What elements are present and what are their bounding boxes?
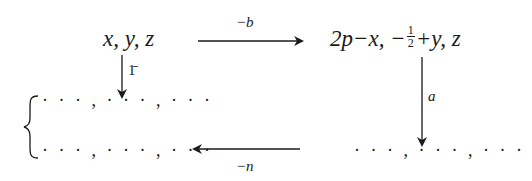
- node-x-y-z: x, y, z: [103, 26, 154, 52]
- node-bottom-right-dots: · · · , · · · , · · ·: [354, 140, 525, 161]
- edge-label-a: a: [428, 88, 436, 105]
- edge-label-minus-n: −n: [236, 158, 254, 175]
- node-glide-prefix: 2p−x, −: [330, 26, 406, 51]
- node-glide-image: 2p−x, −12+y, z: [330, 26, 461, 53]
- fraction-one-half: 12: [407, 24, 415, 49]
- node-middle-left-dots: · · · , · · · , · · ·: [42, 90, 213, 111]
- fraction-denominator: 2: [407, 37, 415, 49]
- node-x-y-z-text: x, y, z: [103, 26, 154, 51]
- edge-label-inversion: 1̄: [128, 62, 136, 79]
- left-brace: [24, 96, 38, 158]
- edge-label-minus-b: −b: [236, 14, 254, 31]
- node-bottom-left-dots: · · · , · · · , · · ·: [42, 140, 213, 161]
- node-glide-suffix: +y, z: [416, 26, 461, 51]
